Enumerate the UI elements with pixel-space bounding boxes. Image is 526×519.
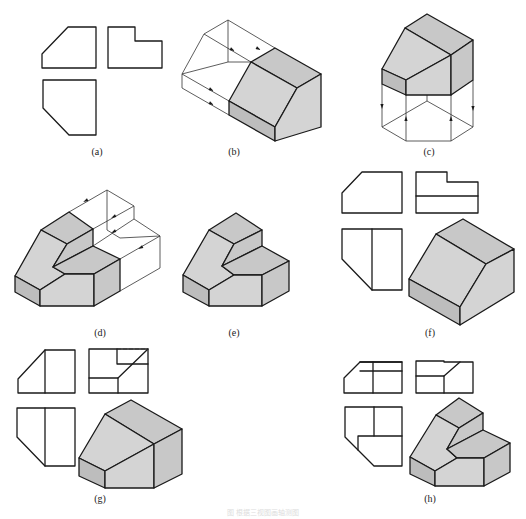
arrow-icon (111, 214, 116, 218)
panel-label: (c) (423, 146, 434, 158)
figure-panels: (a)(b)(c)(d)(e)(f)(g)(h) (15, 14, 514, 505)
top-view-inner (358, 436, 402, 450)
arrow-icon (380, 104, 383, 109)
front-view (18, 350, 75, 393)
panel-label: (g) (94, 493, 106, 505)
projection-line (120, 236, 160, 291)
panel-g: (g) (17, 349, 182, 505)
arrow-icon (471, 106, 474, 111)
arrow-icon (230, 47, 235, 51)
front-view (342, 172, 402, 213)
arrow-icon (256, 46, 261, 50)
side-view-notch (117, 349, 148, 364)
projection-line (182, 88, 229, 115)
projection-line (182, 62, 228, 74)
top-view (43, 80, 96, 135)
panel-e: (e) (183, 213, 289, 339)
panel-c: (c) (380, 14, 474, 158)
panel-label: (h) (424, 493, 436, 505)
projection-line (382, 101, 473, 127)
panel-label: (e) (228, 327, 239, 339)
side-view-slope (444, 362, 460, 376)
arrow-icon (404, 116, 407, 121)
panel-label: (d) (94, 327, 106, 339)
projection-line (134, 206, 160, 236)
panel-b: (b) (182, 20, 321, 158)
projection-line (228, 20, 275, 48)
arrow-icon (209, 101, 214, 105)
side-view-mid (416, 376, 444, 393)
side-view (108, 27, 162, 68)
arrow-icon (449, 116, 452, 121)
side-view (416, 172, 478, 213)
projection-line (69, 190, 134, 212)
front-view (42, 27, 96, 68)
projection-line (182, 74, 229, 101)
panel-label: (f) (425, 327, 435, 339)
arrow-icon (111, 229, 116, 233)
panel-d: (d) (15, 190, 160, 339)
panel-label: (b) (228, 146, 240, 158)
figure-caption: 图 根据三视图画轴测图 (227, 508, 299, 517)
side-view-mid (89, 378, 118, 393)
projection-line (204, 34, 251, 62)
panel-f: (f) (342, 172, 514, 339)
projection-line (382, 127, 473, 141)
arrow-icon (209, 87, 214, 91)
panel-h: (h) (344, 361, 510, 505)
technical-drawing-figure: (a)(b)(c)(d)(e)(f)(g)(h) 图 根据三视图画轴测图 (0, 0, 526, 519)
panel-a: (a) (42, 27, 162, 158)
top-view (17, 408, 75, 466)
panel-label: (a) (91, 146, 102, 158)
